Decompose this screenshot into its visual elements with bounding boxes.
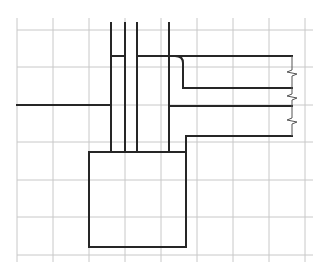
diagram-canvas	[0, 0, 330, 273]
box	[89, 152, 186, 247]
grid	[17, 18, 313, 262]
lower-step-path	[186, 136, 292, 152]
break-line-right	[287, 56, 297, 136]
inner-bend-path	[176, 56, 292, 88]
diagram-lines	[17, 23, 297, 247]
